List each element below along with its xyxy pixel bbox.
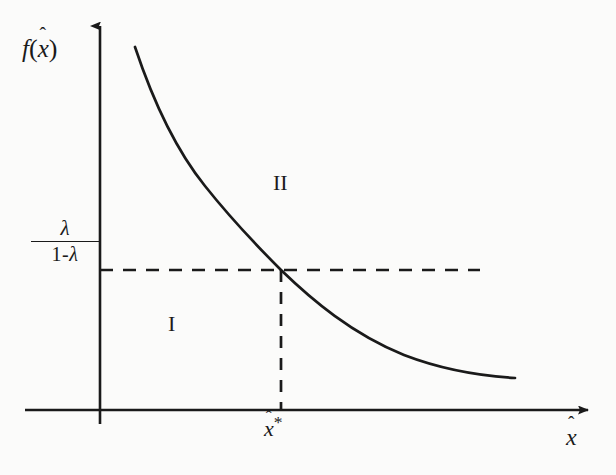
region-label-two: II [273, 172, 288, 194]
x-axis-label-var-hat: ˆx [566, 425, 577, 449]
y-axis-label-func: f [22, 35, 29, 62]
fraction-numerator: λ [31, 218, 99, 240]
fraction-denominator-prefix: 1- [52, 243, 70, 265]
function-curve [135, 47, 515, 378]
hat-accent-icon: ˆ [266, 408, 272, 426]
x-axis-label: ˆx [566, 425, 577, 449]
y-axis-label-close-paren: ) [49, 34, 58, 63]
x-axis-tick-label-xstar: ˆx* [264, 414, 283, 440]
figure-canvas: f(ˆx) λ 1-λ ˆx* ˆx I II [0, 0, 616, 475]
y-axis-tick-label-threshold: λ 1-λ [31, 218, 99, 264]
fraction-bar [31, 241, 99, 242]
hat-accent-icon: ˆ [568, 413, 574, 432]
fraction-denominator: 1-λ [31, 244, 99, 264]
y-axis-label-var-hat: ˆx [38, 36, 49, 61]
hat-accent-icon: ˆ [40, 24, 47, 44]
xstar-var-hat: ˆx [264, 418, 274, 440]
region-label-one: I [168, 313, 175, 335]
y-axis-label: f(ˆx) [22, 36, 57, 62]
xstar-asterisk-icon: * [274, 412, 283, 432]
y-axis-label-open-paren: ( [29, 34, 38, 63]
fraction-denominator-var: λ [69, 243, 78, 265]
